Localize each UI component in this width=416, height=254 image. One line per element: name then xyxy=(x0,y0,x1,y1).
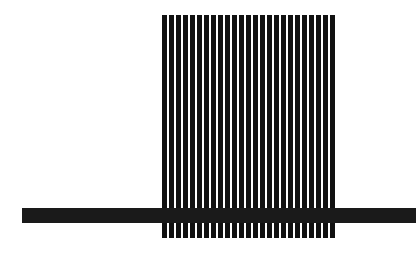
stripe-bar xyxy=(316,15,321,238)
stripe-bar xyxy=(190,15,195,238)
stripe-bar xyxy=(239,15,244,238)
stripe-bar xyxy=(288,15,293,238)
stripe-bar xyxy=(232,15,237,238)
horizontal-band xyxy=(22,208,416,223)
stripe-bar xyxy=(267,15,272,238)
stripe-bar xyxy=(330,15,335,238)
stripe-bar xyxy=(246,15,251,238)
stripe-bar xyxy=(302,15,307,238)
stripe-bar xyxy=(169,15,174,238)
stripe-bar xyxy=(225,15,230,238)
stripe-bar xyxy=(197,15,202,238)
stripe-bar xyxy=(211,15,216,238)
vertical-stripe-block xyxy=(162,15,338,238)
stripe-bar xyxy=(260,15,265,238)
stripe-bar xyxy=(183,15,188,238)
stripe-bar xyxy=(295,15,300,238)
stripe-bar xyxy=(274,15,279,238)
stripe-bar xyxy=(218,15,223,238)
stripe-bar xyxy=(176,15,181,238)
stripe-bar xyxy=(253,15,258,238)
stripe-bar xyxy=(323,15,328,238)
stripe-bar xyxy=(309,15,314,238)
stripe-bar xyxy=(204,15,209,238)
stripe-bar xyxy=(281,15,286,238)
stripe-bar xyxy=(162,15,167,238)
